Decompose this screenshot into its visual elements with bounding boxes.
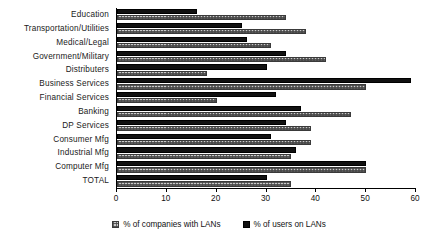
- bar-companies-with-lans: [117, 167, 366, 172]
- legend-label-companies: % of companies with LANs: [123, 220, 220, 229]
- bar-group: [117, 146, 415, 160]
- category-label: DP Services: [0, 119, 112, 133]
- x-axis-tick-label: 40: [311, 194, 320, 203]
- bar-group: [117, 8, 415, 22]
- category-label: Banking: [0, 105, 112, 119]
- legend-item-companies: % of companies with LANs: [112, 220, 220, 229]
- bar-companies-with-lans: [117, 71, 207, 76]
- bar-users-on-lans: [117, 78, 411, 83]
- bar-companies-with-lans: [117, 98, 217, 103]
- category-label: TOTAL: [0, 174, 112, 188]
- x-axis-tick-label: 50: [361, 194, 370, 203]
- bar-users-on-lans: [117, 23, 242, 28]
- bar-group: [117, 77, 415, 91]
- x-axis-tick: [266, 188, 267, 192]
- bar-companies-with-lans: [117, 112, 351, 117]
- category-label: Business Services: [0, 77, 112, 91]
- lan-usage-bar-chart: EducationTransportation/UtilitiesMedical…: [0, 0, 438, 239]
- bar-users-on-lans: [117, 106, 301, 111]
- x-axis-tick-label: 0: [114, 194, 119, 203]
- bar-group: [117, 160, 415, 174]
- bar-group: [117, 105, 415, 119]
- bar-companies-with-lans: [117, 181, 291, 186]
- bar-companies-with-lans: [117, 140, 311, 145]
- category-label: Government/Military: [0, 50, 112, 64]
- category-label: Distributers: [0, 63, 112, 77]
- category-label: Transportation/Utilities: [0, 22, 112, 36]
- category-axis-labels: EducationTransportation/UtilitiesMedical…: [0, 8, 112, 188]
- chart-legend: % of companies with LANs % of users on L…: [0, 220, 438, 229]
- bar-companies-with-lans: [117, 126, 311, 131]
- bar-companies-with-lans: [117, 57, 326, 62]
- category-label: Industrial Mfg: [0, 146, 112, 160]
- category-label: Consumer Mfg: [0, 133, 112, 147]
- bar-companies-with-lans: [117, 154, 291, 159]
- bar-group: [117, 50, 415, 64]
- x-axis-tick: [315, 188, 316, 192]
- bar-users-on-lans: [117, 64, 267, 69]
- x-axis-tick-label: 30: [261, 194, 270, 203]
- x-axis-tick-label: 20: [211, 194, 220, 203]
- x-axis-tick-label: 10: [161, 194, 170, 203]
- bar-users-on-lans: [117, 120, 286, 125]
- plot-area: 0102030405060: [116, 8, 415, 188]
- legend-swatch-dark-icon: [243, 221, 250, 228]
- bar-users-on-lans: [117, 134, 271, 139]
- bar-group: [117, 63, 415, 77]
- category-label: Financial Services: [0, 91, 112, 105]
- bar-users-on-lans: [117, 161, 366, 166]
- legend-swatch-hatched-icon: [112, 221, 119, 228]
- bar-companies-with-lans: [117, 15, 286, 20]
- bar-companies-with-lans: [117, 43, 271, 48]
- category-label: Education: [0, 8, 112, 22]
- x-axis-tick: [116, 188, 117, 192]
- x-axis-tick: [415, 188, 416, 192]
- bar-users-on-lans: [117, 9, 197, 14]
- bar-companies-with-lans: [117, 84, 366, 89]
- bar-users-on-lans: [117, 175, 267, 180]
- category-label: Computer Mfg: [0, 160, 112, 174]
- x-axis-tick: [365, 188, 366, 192]
- bar-group: [117, 36, 415, 50]
- bar-group: [117, 91, 415, 105]
- x-axis-tick: [166, 188, 167, 192]
- category-label: Medical/Legal: [0, 36, 112, 50]
- bar-users-on-lans: [117, 37, 247, 42]
- bar-group: [117, 22, 415, 36]
- bar-users-on-lans: [117, 147, 296, 152]
- bar-group: [117, 119, 415, 133]
- bar-users-on-lans: [117, 92, 276, 97]
- bar-group: [117, 133, 415, 147]
- bar-users-on-lans: [117, 51, 286, 56]
- legend-label-users: % of users on LANs: [254, 220, 326, 229]
- legend-item-users: % of users on LANs: [243, 220, 326, 229]
- x-axis-tick: [216, 188, 217, 192]
- bar-companies-with-lans: [117, 29, 306, 34]
- x-axis-tick-label: 60: [410, 194, 419, 203]
- bar-group: [117, 174, 415, 188]
